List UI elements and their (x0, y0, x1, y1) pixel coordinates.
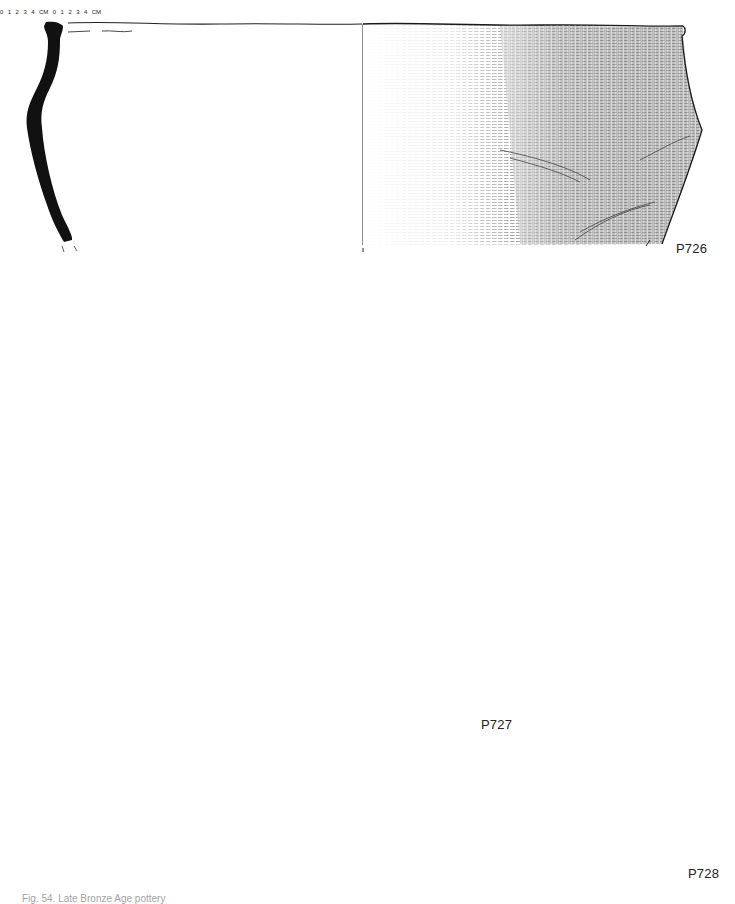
vessel-p726 (27, 22, 702, 252)
vessel-label-p727: P727 (481, 717, 512, 732)
figure-plate (0, 0, 735, 904)
p726-interior-line (68, 31, 132, 32)
vessel-label-p726: P726 (676, 241, 707, 256)
vessel-label-p728: P728 (688, 866, 719, 881)
p726-section-profile (27, 22, 73, 242)
figure-caption: Fig. 54. Late Bronze Age pottery (22, 893, 165, 904)
p726-rim-line (68, 22, 362, 24)
